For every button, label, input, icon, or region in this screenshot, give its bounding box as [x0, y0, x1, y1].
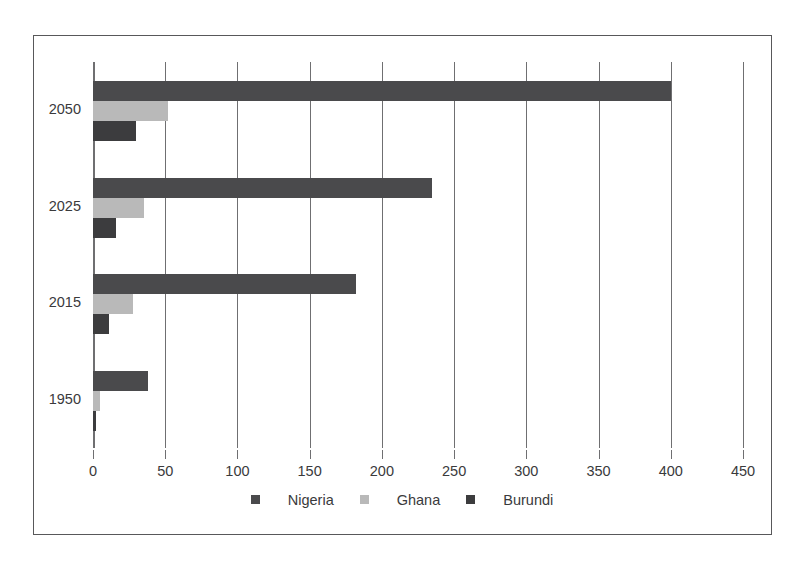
bar-ghana-1950: [93, 391, 100, 411]
bar-ghana-2025: [93, 198, 144, 218]
x-tick-label: 50: [135, 463, 195, 479]
legend-item-ghana[interactable]: Ghana: [360, 490, 441, 508]
x-tickmark-100: [237, 450, 238, 459]
x-tickmark-200: [382, 450, 383, 459]
x-tick-label: 450: [713, 463, 773, 479]
legend-label-nigeria: Nigeria: [288, 492, 334, 508]
legend-swatch-icon-ghana: [360, 495, 369, 504]
x-tickmark-350: [599, 450, 600, 459]
bar-burundi-2015: [93, 314, 109, 334]
x-tickmark-0: [93, 450, 94, 459]
bar-nigeria-2025: [93, 178, 432, 198]
x-tick-label: 200: [352, 463, 412, 479]
x-tickmark-50: [165, 450, 166, 459]
bar-burundi-2025: [93, 218, 116, 238]
x-tick-label: 150: [280, 463, 340, 479]
bar-nigeria-2050: [93, 81, 671, 101]
bar-nigeria-2015: [93, 274, 356, 294]
bar-burundi-1950: [93, 411, 96, 431]
x-tick-label: 100: [207, 463, 267, 479]
y-tick-label-2015: 2015: [21, 294, 81, 310]
gridline-300: [526, 62, 527, 448]
legend-item-burundi[interactable]: Burundi: [466, 490, 553, 508]
gridline-250: [454, 62, 455, 448]
x-tick-label: 300: [496, 463, 556, 479]
legend-label-ghana: Ghana: [397, 492, 441, 508]
x-tickmark-300: [526, 450, 527, 459]
plot-area: [93, 62, 743, 448]
x-tickmark-150: [310, 450, 311, 459]
bar-ghana-2050: [93, 101, 168, 121]
x-tick-label: 0: [63, 463, 123, 479]
legend-swatch-icon-nigeria: [251, 495, 260, 504]
gridline-200: [382, 62, 383, 448]
x-tick-label: 400: [641, 463, 701, 479]
y-tick-label-1950: 1950: [21, 391, 81, 407]
x-tickmark-250: [454, 450, 455, 459]
legend-item-nigeria[interactable]: Nigeria: [251, 490, 334, 508]
gridline-400: [671, 62, 672, 448]
bar-ghana-2015: [93, 294, 133, 314]
x-tick-label: 250: [424, 463, 484, 479]
gridline-100: [237, 62, 238, 448]
x-tickmark-400: [671, 450, 672, 459]
chart-figure: 2050202520151950 05010015020025030035040…: [0, 0, 804, 569]
gridline-150: [310, 62, 311, 448]
x-tick-label: 350: [569, 463, 629, 479]
chart-legend: NigeriaGhanaBurundi: [0, 489, 804, 508]
gridline-450: [743, 62, 744, 448]
y-tick-label-2050: 2050: [21, 101, 81, 117]
gridline-350: [599, 62, 600, 448]
y-tick-label-2025: 2025: [21, 198, 81, 214]
legend-label-burundi: Burundi: [503, 492, 553, 508]
x-tickmark-450: [743, 450, 744, 459]
bar-nigeria-1950: [93, 371, 148, 391]
bar-burundi-2050: [93, 121, 136, 141]
legend-swatch-icon-burundi: [466, 495, 475, 504]
